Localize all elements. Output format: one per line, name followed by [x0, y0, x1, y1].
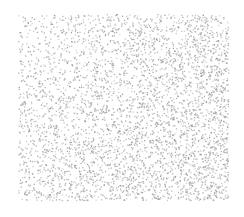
scatter-plot [0, 0, 244, 217]
scatter-points [18, 14, 229, 201]
